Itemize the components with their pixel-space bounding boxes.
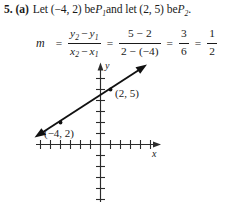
fraction-three-sixths: 3 6 bbox=[179, 27, 189, 58]
y-axis bbox=[96, 63, 105, 203]
y-axis-arrowhead bbox=[98, 63, 104, 71]
line-arrowhead-right bbox=[136, 64, 148, 73]
fraction-bar-3 bbox=[179, 43, 189, 44]
exercise-number: 5. bbox=[4, 3, 13, 16]
exercise-part-label: (a) bbox=[16, 3, 29, 16]
statement-text-end: . bbox=[188, 3, 191, 16]
fraction-substituted: 5 − 2 2 − (−4) bbox=[119, 27, 161, 58]
denominator-x1-symbol: x bbox=[90, 45, 95, 57]
fraction-bar-1 bbox=[68, 43, 101, 44]
point-p1-subscript: 1 bbox=[102, 9, 106, 18]
exercise-statement: 5. (a) Let (−4, 2) be P1 and let (2, 5) … bbox=[4, 3, 233, 20]
point-label-p1: (−4, 2) bbox=[44, 127, 74, 140]
numerator-minus-1: − bbox=[81, 27, 87, 39]
y-axis-label: y bbox=[104, 60, 110, 71]
point-p1-symbol: P bbox=[95, 3, 102, 16]
equals-sign-2: = bbox=[107, 37, 113, 49]
fraction-numerator-substituted: 5 − 2 bbox=[126, 27, 154, 41]
x-axis-arrowhead bbox=[153, 142, 161, 148]
fraction-bar-2 bbox=[119, 43, 161, 44]
fraction-one-half: 1 2 bbox=[207, 27, 217, 58]
fraction-numerator-symbolic: y2−y1 bbox=[68, 27, 101, 41]
x-axis-label: x bbox=[151, 148, 157, 159]
statement-text-pre: Let (−4, 2) be bbox=[33, 3, 95, 16]
fraction-symbolic-slope: y2−y1 x2−x1 bbox=[68, 27, 101, 58]
statement-text-mid: and let (2, 5) be bbox=[106, 3, 177, 16]
coordinate-plane-graph: (2, 5) (−4, 2) y x bbox=[0, 56, 233, 204]
equals-sign-3: = bbox=[167, 37, 173, 49]
equals-sign-1: = bbox=[56, 37, 62, 49]
slope-variable-m: m bbox=[36, 36, 45, 51]
point-p2-symbol: P bbox=[177, 3, 184, 16]
numerator-y2-subscript: 2 bbox=[75, 33, 79, 42]
numerator-y1-symbol: y bbox=[90, 27, 95, 39]
data-point-p2 bbox=[109, 88, 113, 92]
x-axis bbox=[36, 140, 161, 149]
slope-equation: m = y2−y1 x2−x1 = 5 − 2 2 − (−4) = 3 6 =… bbox=[36, 26, 217, 60]
fraction-numerator-3: 3 bbox=[179, 27, 189, 41]
numerator-y1-subscript: 1 bbox=[95, 33, 99, 42]
fraction-bar-4 bbox=[207, 43, 217, 44]
denominator-minus-1: − bbox=[81, 45, 87, 57]
data-point-p1 bbox=[59, 121, 63, 125]
point-label-p2: (2, 5) bbox=[115, 87, 139, 100]
point-p2-subscript: 2 bbox=[185, 9, 189, 18]
fraction-numerator-1: 1 bbox=[207, 27, 217, 41]
equals-sign-4: = bbox=[195, 37, 201, 49]
